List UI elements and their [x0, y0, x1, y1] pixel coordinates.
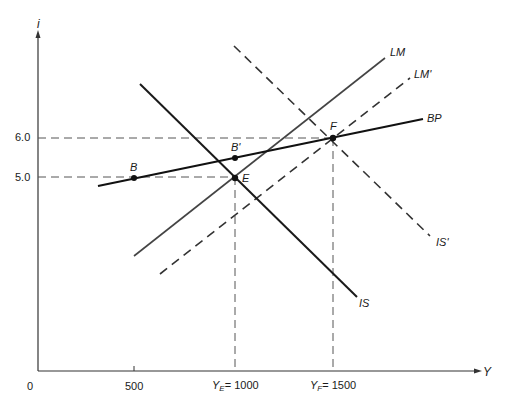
- x-axis-title: Y: [483, 366, 491, 378]
- x-tick-ye: YE= 1000: [212, 380, 259, 393]
- label-f: F: [330, 121, 337, 132]
- label-is-prime: IS': [436, 237, 449, 248]
- point-b-prime: [232, 155, 238, 161]
- lm-prime-curve: [160, 78, 410, 274]
- label-b: B: [130, 162, 137, 173]
- label-e: E: [242, 173, 249, 184]
- label-is: IS: [359, 298, 369, 309]
- x-tick-500: 500: [125, 381, 143, 392]
- lm-curve: [134, 58, 385, 256]
- x-tick-yf: YF= 1500: [310, 380, 356, 393]
- y-tick-5: 5.0: [15, 172, 30, 183]
- label-lm: LM: [390, 47, 405, 58]
- label-b-prime: B': [231, 142, 240, 153]
- y-tick-6: 6.0: [15, 132, 30, 143]
- label-lm-prime: LM': [414, 69, 431, 80]
- y-axis-arrow-icon: [36, 30, 41, 38]
- x-axis-arrow-icon: [474, 369, 482, 374]
- x-tick-yf-value: = 1500: [322, 379, 356, 391]
- islm-bp-diagram: i Y 6.0 5.0 0 500 YE= 1000 YF= 1500 LM L…: [0, 0, 506, 403]
- point-f: [330, 135, 336, 141]
- diagram-canvas: [0, 0, 506, 403]
- x-tick-0: 0: [27, 381, 33, 392]
- x-tick-ye-value: = 1000: [225, 379, 259, 391]
- label-bp: BP: [427, 113, 442, 124]
- point-e: [232, 175, 238, 181]
- point-b: [131, 175, 137, 181]
- bp-curve: [98, 119, 423, 186]
- y-axis-title: i: [37, 18, 40, 30]
